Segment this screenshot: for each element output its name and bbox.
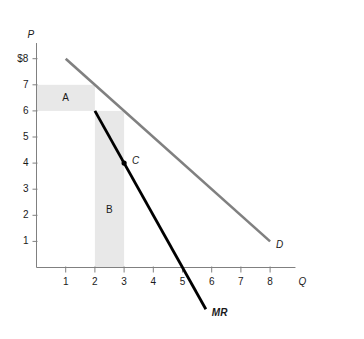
- y-tick-label-5: 5: [23, 132, 29, 142]
- shaded-regions-group: [37, 85, 125, 268]
- markers-group: [122, 161, 127, 166]
- x-axis-title: Q: [298, 277, 306, 287]
- y-tick-label-1: 1: [23, 236, 29, 246]
- axes-group: [37, 43, 296, 267]
- point-c-marker: [122, 161, 127, 166]
- y-tick-label-8: $8: [17, 54, 28, 64]
- curve-label-D: D: [276, 240, 283, 250]
- x-tick-label-8: 8: [267, 277, 273, 287]
- region-a-label: A: [62, 93, 69, 103]
- x-tick-label-7: 7: [238, 277, 244, 287]
- y-tick-label-7: 7: [23, 80, 29, 90]
- x-tick-label-4: 4: [151, 277, 157, 287]
- y-tick-label-4: 4: [23, 158, 29, 168]
- x-tick-label-3: 3: [121, 277, 127, 287]
- economics-chart-figure: AB1234567$812345678PQDMRC: [0, 0, 364, 339]
- y-axis-title: P: [28, 30, 35, 40]
- point-c-label: C: [132, 156, 139, 166]
- x-tick-label-5: 5: [180, 277, 186, 287]
- x-tick-label-2: 2: [92, 277, 98, 287]
- y-tick-label-3: 3: [23, 184, 29, 194]
- plot-canvas: [0, 0, 364, 339]
- y-tick-label-6: 6: [23, 106, 29, 116]
- x-tick-label-1: 1: [63, 277, 69, 287]
- y-tick-label-2: 2: [23, 210, 29, 220]
- curve-label-MR: MR: [212, 308, 228, 318]
- x-tick-label-6: 6: [209, 277, 215, 287]
- region-b-label: B: [106, 205, 113, 215]
